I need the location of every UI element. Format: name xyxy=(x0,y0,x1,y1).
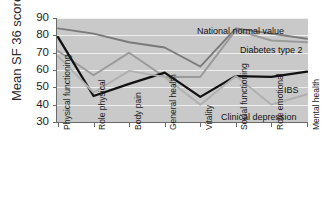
x-tick-mark xyxy=(236,122,237,127)
y-tick-mark xyxy=(53,35,57,36)
x-tick-mark xyxy=(58,122,59,127)
y-tick-label: 90 xyxy=(27,12,49,23)
y-tick-label: 80 xyxy=(27,29,49,40)
y-tick-label: 50 xyxy=(27,81,49,92)
chart-root: Mean SF 36 score 90807060504030 Physical… xyxy=(0,0,322,217)
x-tick-mark xyxy=(271,122,272,127)
y-tick-mark xyxy=(53,87,57,88)
x-tick-mark xyxy=(165,122,166,127)
x-tick-label: Role physical xyxy=(97,79,107,130)
y-tick-mark xyxy=(53,70,57,71)
y-tick-mark xyxy=(53,105,57,106)
annotation-national-normal-value: National normal value xyxy=(197,26,284,36)
x-tick-label: Body pain xyxy=(133,92,143,130)
annotation-clinical-depression: Clinical depression xyxy=(221,112,297,122)
x-tick-mark xyxy=(129,122,130,127)
annotation-ibs: IBS xyxy=(284,85,299,95)
x-tick-mark xyxy=(307,122,308,127)
x-tick-label: Vitality xyxy=(204,105,214,130)
y-tick-label: 30 xyxy=(27,116,49,127)
y-tick-mark xyxy=(53,122,57,123)
y-tick-label: 40 xyxy=(27,99,49,110)
x-tick-label: Physical functioning xyxy=(62,55,72,130)
x-tick-mark xyxy=(200,122,201,127)
y-tick-mark xyxy=(53,53,57,54)
x-tick-mark xyxy=(94,122,95,127)
y-tick-mark xyxy=(53,18,57,19)
x-tick-label: Mental health xyxy=(311,79,321,130)
y-tick-label: 70 xyxy=(27,47,49,58)
y-tick-label: 60 xyxy=(27,64,49,75)
x-tick-label: General health xyxy=(168,74,178,130)
annotation-diabetes-type-2: Diabetes type 2 xyxy=(240,45,303,55)
